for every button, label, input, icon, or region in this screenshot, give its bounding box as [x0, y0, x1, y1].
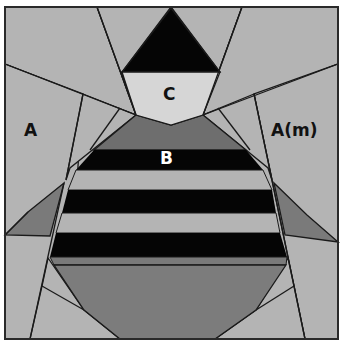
quilt-diagram-svg: A A(m) B C	[0, 0, 343, 345]
stripe-light-2	[56, 213, 280, 233]
label-a-left: A	[24, 120, 38, 140]
stripe-black-2	[62, 190, 276, 213]
stripe-gray-band	[50, 257, 287, 265]
label-a-right: A(m)	[271, 120, 317, 140]
label-c: C	[163, 84, 175, 104]
label-b: B	[160, 148, 173, 168]
quilt-diagram: A A(m) B C	[0, 0, 343, 345]
stripe-black-3	[50, 233, 287, 257]
stripe-light-1	[68, 170, 272, 190]
